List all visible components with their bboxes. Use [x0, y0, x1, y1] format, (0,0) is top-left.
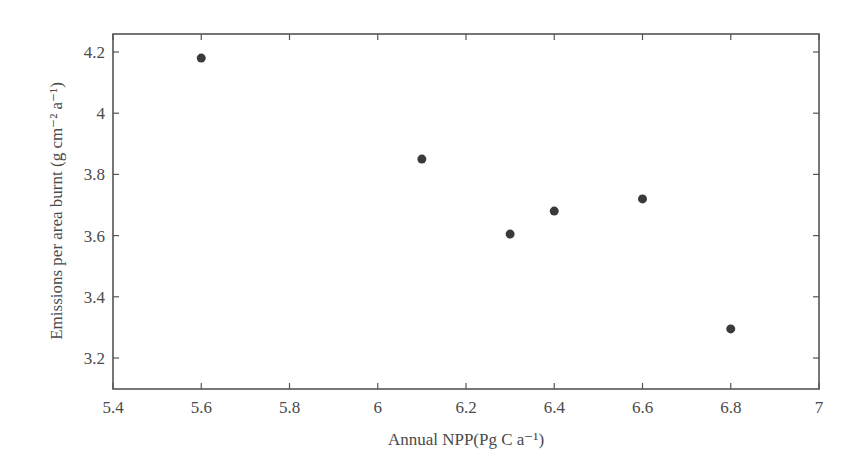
data-point-marker [550, 207, 559, 216]
x-tick-label: 6.4 [544, 398, 566, 417]
scatter-chart: 5.45.65.866.26.46.66.87 3.23.43.63.844.2… [0, 0, 863, 469]
x-tick-label: 5.6 [191, 398, 212, 417]
x-tick-label: 6 [374, 398, 383, 417]
y-tick-label: 3.6 [84, 227, 105, 246]
x-tick-label: 6.8 [720, 398, 741, 417]
x-tick-label: 7 [815, 398, 824, 417]
data-point-marker [417, 155, 426, 164]
y-tick-label: 3.4 [84, 288, 106, 307]
y-tick-label: 3.2 [84, 349, 105, 368]
x-axis-ticks: 5.45.65.866.26.46.66.87 [102, 34, 823, 417]
x-tick-label: 6.2 [455, 398, 476, 417]
data-point-marker [197, 54, 206, 63]
data-point-marker [726, 324, 735, 333]
x-tick-label: 5.8 [279, 398, 300, 417]
plot-border [113, 34, 819, 389]
x-tick-label: 5.4 [102, 398, 124, 417]
data-point-marker [506, 230, 515, 239]
y-tick-label: 4 [97, 104, 106, 123]
data-point-marker [638, 194, 647, 203]
data-points [197, 54, 736, 334]
y-tick-label: 3.8 [84, 165, 105, 184]
y-tick-label: 4.2 [84, 43, 105, 62]
y-axis-label: Emissions per area burnt (g cm⁻² a⁻¹) [47, 82, 66, 340]
x-tick-label: 6.6 [632, 398, 653, 417]
plot-frame [113, 34, 819, 389]
y-axis-ticks: 3.23.43.63.844.2 [84, 43, 819, 368]
x-axis-label: Annual NPP(Pg C a⁻¹) [388, 430, 544, 449]
